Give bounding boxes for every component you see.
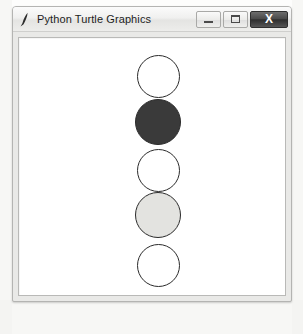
minimize-button[interactable]	[196, 11, 221, 28]
turtle-canvas[interactable]	[19, 38, 285, 295]
turtle-circle-3	[137, 149, 180, 192]
window-controls: X	[196, 11, 289, 28]
window-title-bar[interactable]: Python Turtle Graphics X	[13, 7, 291, 32]
maximize-icon	[231, 15, 240, 23]
turtle-circle-2	[135, 99, 181, 145]
turtle-graphics-window: Python Turtle Graphics X	[12, 6, 292, 302]
turtle-circle-1	[137, 55, 180, 98]
window-title: Python Turtle Graphics	[37, 14, 196, 25]
turtle-circle-5	[137, 244, 180, 287]
close-button[interactable]: X	[250, 11, 288, 28]
scan-artifact	[0, 0, 12, 334]
turtle-circle-4	[135, 192, 181, 238]
scan-artifact	[292, 0, 303, 334]
pen-feather-icon	[19, 12, 32, 27]
scan-artifact	[0, 300, 303, 334]
maximize-button[interactable]	[223, 11, 248, 28]
minimize-icon	[204, 21, 213, 23]
canvas-frame	[18, 37, 286, 296]
close-icon: X	[265, 13, 273, 25]
